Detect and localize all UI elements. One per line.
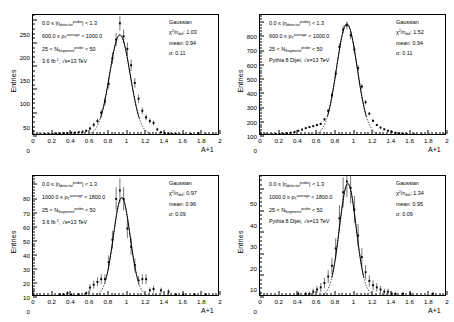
data-point-marker xyxy=(402,293,404,295)
data-point-marker xyxy=(205,134,207,136)
gaussian-chi2-value: χ2/ndof: 0.97 xyxy=(169,188,197,199)
annotation-line: 600.0 ≤ pTaverage < 1000.0 xyxy=(269,31,329,43)
data-point-marker xyxy=(104,101,106,103)
data-point-marker xyxy=(316,124,318,126)
data-point-marker xyxy=(48,133,50,135)
data-point-marker xyxy=(100,112,102,114)
data-point-marker xyxy=(111,239,113,241)
data-point-marker xyxy=(282,295,284,297)
data-point-marker xyxy=(361,256,363,258)
data-point-marker xyxy=(93,124,95,126)
selection-annotations: 0.0 ≤ |ηdetectorprobe| < 1.3600.0 ≤ pTav… xyxy=(269,18,329,66)
selection-annotations: 0.0 ≤ |ηdetectorprobe| < 1.31000.0 ≤ pTa… xyxy=(269,179,332,227)
data-point-marker xyxy=(365,271,367,273)
fit-legend: Gaussianχ2/ndof: 1.03mean: 0.94σ: 0.11 xyxy=(169,18,197,58)
data-point-marker xyxy=(290,295,292,297)
gaussian-legend-title: Gaussian xyxy=(169,18,197,26)
data-point-marker xyxy=(286,132,288,134)
data-point-marker xyxy=(406,133,408,135)
data-point-marker xyxy=(183,134,185,136)
gaussian-sigma-value: σ: 0.11 xyxy=(396,49,424,57)
data-point-marker xyxy=(402,133,404,135)
data-point-marker xyxy=(361,86,363,88)
data-point-marker xyxy=(297,130,299,132)
data-point-marker xyxy=(413,133,415,135)
data-point-marker xyxy=(149,289,151,291)
gaussian-legend-title: Gaussian xyxy=(396,18,424,26)
data-point-marker xyxy=(141,110,143,112)
fit-legend: Gaussianχ2/ndof: 1.34mean: 0.95σ: 0.09 xyxy=(396,179,424,219)
data-point-marker xyxy=(309,126,311,128)
data-point-marker xyxy=(327,276,329,278)
data-point-marker xyxy=(100,278,102,280)
data-point-marker xyxy=(294,131,296,133)
data-point-marker xyxy=(331,94,333,96)
data-point-marker xyxy=(342,29,344,31)
fit-legend: Gaussianχ2/ndof: 0.97mean: 0.96σ: 0.09 xyxy=(169,179,197,219)
chart-panel-bottom-right: Entries0102030405000.20.40.60.811.21.41.… xyxy=(227,161,454,322)
data-point-marker xyxy=(130,64,132,66)
data-point-marker xyxy=(123,35,125,37)
gaussian-sigma-value: σ: 0.09 xyxy=(396,210,424,218)
data-point-marker xyxy=(93,284,95,286)
data-point-marker xyxy=(301,129,303,131)
gaussian-fit-curve xyxy=(332,184,364,278)
data-point-marker xyxy=(260,133,262,135)
data-point-marker xyxy=(89,128,91,130)
fit-legend: Gaussianχ2/ndof: 1.52mean: 0.94σ: 0.11 xyxy=(396,18,424,58)
data-point-marker xyxy=(368,113,370,115)
data-point-marker xyxy=(365,101,367,103)
data-point-marker xyxy=(156,128,158,130)
data-point-marker xyxy=(368,280,370,282)
data-point-marker xyxy=(123,198,125,200)
data-point-marker xyxy=(194,294,196,296)
data-point-marker xyxy=(290,132,292,134)
data-point-marker xyxy=(324,118,326,120)
data-point-marker xyxy=(153,122,155,124)
data-point-marker xyxy=(175,294,177,296)
data-point-marker xyxy=(149,120,151,122)
data-point-marker xyxy=(160,131,162,133)
gaussian-fit-curve xyxy=(100,35,139,119)
data-point-marker xyxy=(428,133,430,135)
annotation-line: 0.0 ≤ |ηdetectorprobe| < 1.3 xyxy=(42,18,102,30)
data-point-marker xyxy=(309,293,311,295)
chart-panel-top-left: Entries05010015020025000.20.40.60.811.21… xyxy=(0,0,227,161)
data-point-marker xyxy=(372,284,374,286)
data-point-marker xyxy=(342,191,344,193)
data-point-marker xyxy=(305,127,307,129)
annotation-line: 3.6 fb-1, √s=13 TeV xyxy=(42,217,105,227)
annotation-line: 1000.0 ≤ pTaverage < 1800.0 xyxy=(269,192,332,204)
gaussian-sigma-value: σ: 0.09 xyxy=(169,210,197,218)
data-point-marker xyxy=(168,291,170,293)
annotation-line: 0.0 ≤ |ηdetectorprobe| < 1.3 xyxy=(269,179,332,191)
data-point-marker xyxy=(335,248,337,250)
data-point-marker xyxy=(338,217,340,219)
data-point-marker xyxy=(387,130,389,132)
data-point-marker xyxy=(387,291,389,293)
data-point-marker xyxy=(141,278,143,280)
data-point-marker xyxy=(70,294,72,296)
data-point-marker xyxy=(443,134,445,136)
data-point-marker xyxy=(432,293,434,295)
gaussian-chi2-value: χ2/ndof: 1.34 xyxy=(396,188,424,199)
data-point-marker xyxy=(271,133,273,135)
data-point-marker xyxy=(350,187,352,189)
gaussian-sigma-value: σ: 0.11 xyxy=(169,49,197,57)
annotation-line: 25 < NSegmentsprobe < 50 xyxy=(269,44,329,56)
data-point-marker xyxy=(357,235,359,237)
data-point-marker xyxy=(331,265,333,267)
data-point-marker xyxy=(33,134,35,136)
data-point-marker xyxy=(395,132,397,134)
data-point-marker xyxy=(205,294,207,296)
data-point-marker xyxy=(439,295,441,297)
data-point-marker xyxy=(197,132,199,134)
data-point-marker xyxy=(119,22,121,24)
data-point-marker xyxy=(70,132,72,134)
data-point-marker xyxy=(44,133,46,135)
data-point-marker xyxy=(119,190,121,192)
data-point-marker xyxy=(297,293,299,295)
annotation-line: 1000.0 ≤ pTaverage < 1800.0 xyxy=(42,192,105,204)
data-point-marker xyxy=(264,133,266,135)
data-point-marker xyxy=(59,133,61,135)
